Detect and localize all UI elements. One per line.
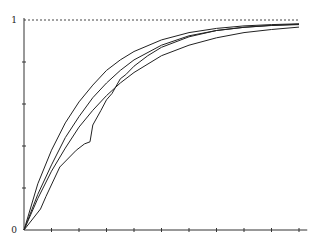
y-axis-labels: 01	[11, 15, 17, 235]
series-smooth-fast	[24, 24, 299, 230]
chart-canvas: 01	[0, 0, 319, 244]
y-tick-label-1: 1	[11, 15, 17, 25]
y-tick-label-0: 0	[11, 225, 17, 235]
series-group	[24, 24, 299, 230]
series-piecewise	[24, 24, 299, 230]
series-smooth-slow	[24, 27, 299, 230]
